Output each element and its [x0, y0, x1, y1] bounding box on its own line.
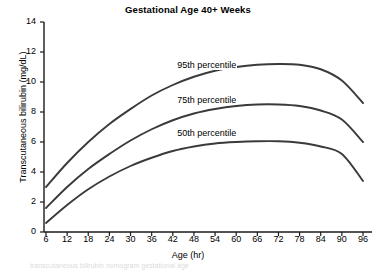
x-tick-label: 18 [77, 234, 99, 244]
x-tick-label: 90 [331, 234, 353, 244]
y-tick-label: 10 [12, 76, 36, 86]
data-series [46, 64, 363, 223]
footer-artifact: transcutaneous bilirubin nomogram gestat… [30, 262, 360, 270]
series-label-1: 95th percentile [176, 60, 237, 70]
y-tick-label: 12 [12, 46, 36, 56]
x-tick-label: 66 [246, 234, 268, 244]
x-tick-label: 48 [183, 234, 205, 244]
x-tick-label: 24 [98, 234, 120, 244]
x-tick-label: 96 [352, 234, 374, 244]
x-tick-label: 54 [204, 234, 226, 244]
y-tick-label: 2 [12, 196, 36, 206]
x-tick-label: 84 [310, 234, 332, 244]
x-tick-label: 12 [56, 234, 78, 244]
x-tick-label: 30 [120, 234, 142, 244]
series-line-1 [46, 64, 363, 187]
x-tick-label: 72 [267, 234, 289, 244]
y-tick-label: 14 [12, 16, 36, 26]
series-line-2 [46, 104, 363, 208]
x-tick-label: 42 [162, 234, 184, 244]
series-label-2: 75th percentile [176, 95, 237, 105]
y-tick-label: 8 [12, 106, 36, 116]
x-tick-label: 60 [225, 234, 247, 244]
chart-container: Gestational Age 40+ Weeks Transcutaneous… [0, 0, 376, 273]
y-tick-label: 6 [12, 136, 36, 146]
x-tick-label: 6 [35, 234, 57, 244]
y-tick-label: 0 [12, 226, 36, 236]
series-line-3 [46, 141, 363, 223]
x-tick-label: 78 [289, 234, 311, 244]
y-tick-label: 4 [12, 166, 36, 176]
series-label-3: 50th percentile [176, 128, 237, 138]
x-tick-label: 36 [141, 234, 163, 244]
